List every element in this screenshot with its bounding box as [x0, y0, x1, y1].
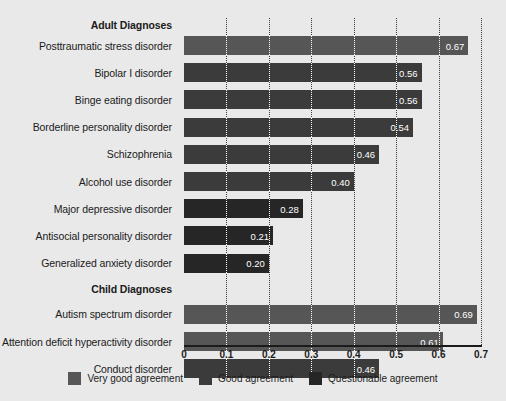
x-tick-label: 0.6	[432, 349, 446, 360]
bar: 0.40	[184, 172, 354, 191]
bar-gridline	[354, 118, 355, 137]
bar-value-label: 0.21	[251, 230, 270, 241]
section-header-row: Adult Diagnoses	[0, 18, 506, 32]
x-tick-label: 0.2	[262, 349, 276, 360]
bar: 0.69	[184, 305, 477, 324]
bar-gridline	[226, 305, 227, 324]
bar-gridline	[311, 145, 312, 164]
bar-rows: Adult DiagnosesPosttraumatic stress diso…	[0, 18, 506, 345]
bar-row: Generalized anxiety disorder0.20	[0, 250, 506, 277]
legend-swatch-icon	[309, 372, 322, 385]
bar-gridline	[354, 63, 355, 82]
bar-gridline	[311, 90, 312, 109]
bar-category-label: Binge eating disorder	[0, 86, 178, 113]
bar-gridline	[226, 118, 227, 137]
bar-gridline	[226, 90, 227, 109]
bar-row: Autism spectrum disorder0.69	[0, 301, 506, 328]
bar-gridline	[354, 145, 355, 164]
bar-category-label: Posttraumatic stress disorder	[0, 32, 178, 59]
bar-gridline	[354, 305, 355, 324]
bar-gridline	[311, 63, 312, 82]
bar-category-label: Attention deficit hyperactivity disorder	[0, 328, 178, 355]
bar-value-label: 0.56	[399, 94, 418, 105]
bar-value-label: 0.40	[331, 176, 350, 187]
bar-gridline	[311, 118, 312, 137]
bar: 0.67	[184, 36, 468, 55]
bar-gridline	[311, 305, 312, 324]
x-tick-label: 0	[181, 349, 187, 360]
bar-gridline	[226, 172, 227, 191]
x-axis-tick-labels: 00.10.20.30.40.50.60.7	[184, 349, 481, 365]
bar-gridline	[354, 90, 355, 109]
bar-gridline	[226, 63, 227, 82]
bar-row: Schizophrenia0.46	[0, 141, 506, 168]
bar-value-label: 0.28	[280, 203, 299, 214]
bar-category-label: Generalized anxiety disorder	[0, 250, 178, 277]
bar-gridline	[396, 36, 397, 55]
bar-value-label: 0.20	[246, 258, 265, 269]
bar-row: Borderline personality disorder0.54	[0, 114, 506, 141]
bar-gridline	[269, 118, 270, 137]
bar-category-label: Bipolar I disorder	[0, 59, 178, 86]
agreement-bar-chart: Adult DiagnosesPosttraumatic stress diso…	[0, 0, 506, 401]
bar-gridline	[269, 172, 270, 191]
bar-value-label: 0.56	[399, 67, 418, 78]
section-header-row: Child Diagnoses	[0, 277, 506, 301]
bar: 0.21	[184, 226, 273, 245]
bar-gridline	[269, 36, 270, 55]
bar-gridline	[269, 90, 270, 109]
legend-item: Questionable agreement	[309, 372, 438, 385]
legend-swatch-icon	[68, 372, 81, 385]
bar-value-label: 0.46	[357, 149, 376, 160]
x-tick-label: 0.1	[219, 349, 233, 360]
bar: 0.56	[184, 63, 422, 82]
bar-gridline	[269, 145, 270, 164]
bar-gridline	[269, 63, 270, 82]
bar-row: Alcohol use disorder0.40	[0, 168, 506, 195]
bar-row: Bipolar I disorder0.56	[0, 59, 506, 86]
bar: 0.28	[184, 199, 303, 218]
section-title: Child Diagnoses	[0, 277, 178, 301]
bar-category-label: Alcohol use disorder	[0, 168, 178, 195]
x-tick-label: 0.3	[304, 349, 318, 360]
bar-value-label: 0.54	[391, 122, 410, 133]
bar-value-label: 0.67	[446, 40, 465, 51]
bar: 0.54	[184, 118, 413, 137]
bar-category-label: Schizophrenia	[0, 141, 178, 168]
bar-gridline	[396, 305, 397, 324]
bar-gridline	[226, 254, 227, 273]
bar-category-label: Antisocial personality disorder	[0, 222, 178, 249]
bar: 0.56	[184, 90, 422, 109]
bar-gridline	[226, 145, 227, 164]
legend-item: Good agreement	[199, 372, 293, 385]
bar-gridline	[439, 36, 440, 55]
bar-value-label: 0.69	[454, 309, 473, 320]
x-tick-label: 0.4	[347, 349, 361, 360]
legend-label: Very good agreement	[87, 373, 183, 384]
bar-gridline	[269, 199, 270, 218]
bar-row: Posttraumatic stress disorder0.67	[0, 32, 506, 59]
bar-gridline	[226, 226, 227, 245]
legend-item: Very good agreement	[68, 372, 183, 385]
bar: 0.46	[184, 145, 379, 164]
bar-gridline	[439, 305, 440, 324]
bar-gridline	[396, 63, 397, 82]
bar-gridline	[226, 36, 227, 55]
bar-gridline	[311, 172, 312, 191]
bar: 0.20	[184, 254, 269, 273]
bar-gridline	[396, 90, 397, 109]
bar-category-label: Autism spectrum disorder	[0, 301, 178, 328]
bar-row: Major depressive disorder0.28	[0, 195, 506, 222]
bar-gridline	[226, 199, 227, 218]
bar-gridline	[354, 36, 355, 55]
legend-label: Questionable agreement	[328, 373, 438, 384]
bar-category-label: Major depressive disorder	[0, 195, 178, 222]
legend-label: Good agreement	[218, 373, 293, 384]
chart-legend: Very good agreementGood agreementQuestio…	[0, 372, 506, 385]
x-tick-label: 0.7	[474, 349, 488, 360]
x-tick-label: 0.5	[389, 349, 403, 360]
x-axis-line	[184, 345, 482, 347]
bar-row: Binge eating disorder0.56	[0, 86, 506, 113]
bar-category-label: Borderline personality disorder	[0, 114, 178, 141]
legend-swatch-icon	[199, 372, 212, 385]
